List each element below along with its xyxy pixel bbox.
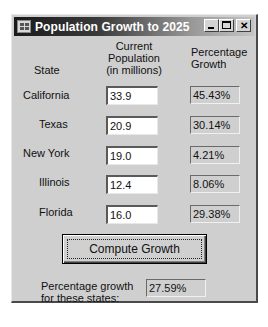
header-population: Current Population (in millions) [106, 40, 162, 76]
close-button[interactable]: ✕ [236, 19, 251, 32]
window-title: Population Growth to 2025 [35, 20, 190, 34]
population-input-florida[interactable]: 16.0 [106, 205, 158, 224]
window-controls: ✕ [204, 19, 251, 32]
state-label-illinois: Illinois [39, 176, 70, 188]
header-population-line3: (in millions) [106, 64, 162, 76]
header-growth-line1: Percentage [191, 46, 247, 58]
growth-output-illinois: 8.06% [190, 175, 240, 193]
summary-label-line2: for these states: [41, 292, 133, 304]
close-icon: ✕ [240, 20, 248, 31]
population-input-new-york[interactable]: 19.0 [106, 146, 158, 165]
state-label-florida: Florida [39, 206, 73, 218]
maximize-button[interactable] [219, 19, 234, 32]
summary-growth-output: 27.59% [146, 279, 206, 297]
growth-output-california: 45.43% [190, 86, 240, 104]
header-state: State [34, 64, 60, 76]
growth-output-florida: 29.38% [190, 205, 240, 223]
growth-output-new-york: 4.21% [190, 146, 240, 164]
header-growth: Percentage Growth [191, 46, 247, 70]
population-input-texas[interactable]: 20.9 [106, 116, 158, 135]
summary-label: Percentage growth for these states: [41, 280, 133, 304]
compute-growth-label: Compute Growth [89, 242, 180, 256]
maximize-icon [222, 21, 231, 29]
state-label-new-york: New York [23, 147, 69, 159]
header-growth-line2: Growth [191, 58, 247, 70]
header-population-line2: Population [106, 52, 162, 64]
state-label-texas: Texas [39, 118, 68, 130]
minimize-icon [208, 27, 214, 29]
population-input-california[interactable]: 33.9 [106, 86, 158, 105]
header-population-line1: Current [106, 40, 162, 52]
population-input-illinois[interactable]: 12.4 [106, 175, 158, 194]
growth-output-texas: 30.14% [190, 116, 240, 134]
minimize-button[interactable] [204, 19, 219, 32]
compute-growth-button[interactable]: Compute Growth [62, 234, 207, 264]
state-label-california: California [23, 89, 69, 101]
app-form-icon[interactable] [17, 20, 31, 33]
summary-label-line1: Percentage growth [41, 280, 133, 292]
title-bar[interactable]: Population Growth to 2025 ✕ [14, 17, 254, 36]
